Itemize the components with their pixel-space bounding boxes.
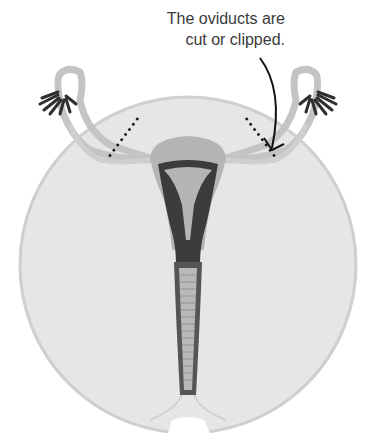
fimbriae-right (300, 92, 336, 114)
annotation-caption: The oviducts are cut or clipped. (150, 8, 285, 50)
fimbriae-left (40, 92, 76, 114)
annotation-line-2: cut or clipped. (150, 29, 285, 50)
reproductive-diagram (0, 0, 373, 433)
annotation-line-1: The oviducts are (150, 8, 285, 29)
